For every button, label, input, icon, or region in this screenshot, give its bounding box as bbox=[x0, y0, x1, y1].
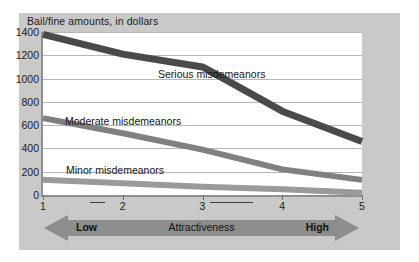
axis-label-low: Low bbox=[76, 221, 97, 233]
attractiveness-axis-arrow: Low Attractiveness High bbox=[44, 215, 359, 241]
y-axis-tick-label: 1000 bbox=[16, 73, 39, 85]
minor-label-leader-right bbox=[210, 202, 253, 203]
series-label-moderate: Moderate misdemeanors bbox=[65, 115, 181, 127]
x-axis-tick-label: 4 bbox=[279, 200, 285, 212]
axis-label-attractiveness: Attractiveness bbox=[169, 221, 235, 233]
y-axis-tick-label: 400 bbox=[21, 142, 39, 154]
y-axis-tick-label: 1400 bbox=[16, 26, 39, 38]
series-line bbox=[43, 180, 362, 193]
minor-label-leader-left bbox=[90, 202, 105, 203]
y-axis-tick-label: 800 bbox=[21, 96, 39, 108]
chart-figure: Bail/fine amounts, in dollars 0200400600… bbox=[0, 0, 419, 262]
x-axis-tick-label: 1 bbox=[40, 200, 46, 212]
y-axis-tick-label: 1200 bbox=[16, 49, 39, 61]
series-label-serious: Serious misdemeanors bbox=[158, 68, 265, 80]
axis-label-high: High bbox=[306, 221, 329, 233]
chart-title: Bail/fine amounts, in dollars bbox=[27, 15, 158, 27]
x-axis-tick-label: 5 bbox=[359, 200, 365, 212]
y-axis-tick-label: 0 bbox=[33, 189, 39, 201]
series-label-minor: Minor misdemeanors bbox=[66, 164, 164, 176]
arrow-head-right-icon bbox=[335, 215, 359, 241]
y-axis-tick-label: 600 bbox=[21, 119, 39, 131]
x-axis-tick-label: 2 bbox=[120, 200, 126, 212]
x-axis-tick-label: 3 bbox=[200, 200, 206, 212]
y-axis-tick-label: 200 bbox=[21, 166, 39, 178]
arrow-head-left-icon bbox=[44, 215, 68, 241]
